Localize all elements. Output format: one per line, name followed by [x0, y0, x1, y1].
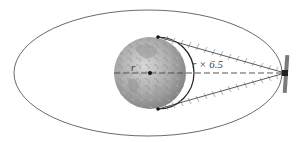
radius-label: r — [131, 61, 135, 73]
satellite-icon — [282, 55, 289, 93]
tangent-point-bottom — [156, 107, 160, 111]
earth-center-point — [148, 71, 152, 75]
diagram-canvas — [0, 0, 296, 142]
orbit-diagram: r r × 6.5 — [0, 0, 296, 142]
tangent-point-top — [156, 35, 160, 39]
distance-label: r × 6.5 — [192, 58, 223, 70]
